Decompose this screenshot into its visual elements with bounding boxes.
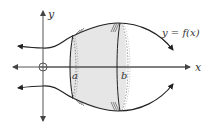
- upper-curve-left-tail: [18, 46, 43, 48]
- x-axis-label: x: [195, 61, 202, 74]
- lower-curve-left-tail: [18, 86, 43, 88]
- solid-of-revolution-diagram: y x a b y = f(x): [0, 0, 215, 131]
- curve-label: y = f(x): [161, 27, 200, 38]
- bound-b-label: b: [121, 70, 127, 81]
- y-axis-label: y: [47, 8, 55, 21]
- bound-a-label: a: [72, 70, 78, 81]
